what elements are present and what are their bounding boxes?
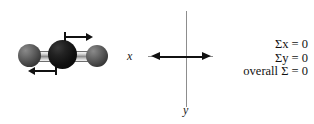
- equation-sum-y: Σy = 0: [168, 52, 308, 66]
- vibration-arrow-left-icon: [28, 65, 58, 76]
- equation-overall-sum: overall Σ = 0: [168, 65, 308, 79]
- vibration-arrow-top-head: [86, 33, 93, 41]
- equation-sum-x: Σx = 0: [168, 38, 308, 52]
- vibration-arrow-bottom-shaft: [33, 70, 56, 72]
- x-axis-label: x: [127, 50, 132, 62]
- equations-block: Σx = 0 Σy = 0 overall Σ = 0: [168, 38, 308, 79]
- vibration-dipole-figure: x y Σx = 0 Σy = 0 overall Σ = 0: [0, 0, 314, 124]
- vibration-arrow-bottom-tick: [55, 66, 57, 75]
- atom-right-sphere: [86, 45, 108, 67]
- molecule-diagram: [0, 0, 120, 124]
- y-axis-label: y: [183, 104, 188, 116]
- atom-left-sphere: [18, 44, 41, 67]
- vibration-arrow-top-shaft: [65, 36, 88, 38]
- vibration-arrow-right-icon: [63, 31, 93, 42]
